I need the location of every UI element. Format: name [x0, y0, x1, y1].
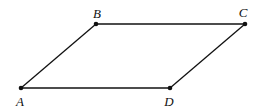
vertex-label-A: A	[15, 94, 24, 109]
vertex-labels: ABCD	[15, 5, 248, 109]
vertex-B	[94, 22, 99, 27]
vertex-A	[19, 86, 24, 91]
parallelogram-edges	[21, 24, 245, 88]
vertex-label-C: C	[239, 5, 248, 20]
edge-CD	[170, 24, 245, 88]
vertex-D	[168, 86, 173, 91]
vertex-C	[243, 22, 248, 27]
vertex-label-B: B	[93, 6, 101, 21]
parallelogram-diagram: ABCD	[0, 0, 260, 111]
vertex-label-D: D	[163, 94, 174, 109]
vertex-points	[19, 22, 248, 91]
edge-AB	[21, 24, 96, 88]
